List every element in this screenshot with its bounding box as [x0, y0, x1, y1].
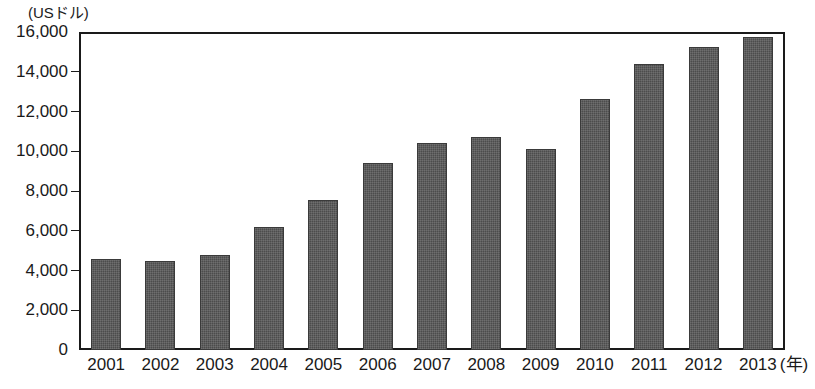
- y-axis-tick-label: 10,000: [0, 142, 68, 159]
- y-axis-tick-label: 8,000: [0, 182, 68, 199]
- y-axis-tick-label: 0: [0, 341, 68, 358]
- x-axis-unit-label: (年): [780, 355, 808, 374]
- x-axis-tick-label: 2002: [130, 355, 190, 374]
- x-axis-tick-label: 2003: [185, 355, 245, 374]
- y-axis-tick: [71, 191, 79, 192]
- x-axis-tick-label: 2007: [402, 355, 462, 374]
- x-axis-tick-label: 2011: [619, 355, 679, 374]
- x-axis-tick-label: 2013: [728, 355, 788, 374]
- y-axis-tick: [71, 71, 79, 72]
- y-axis-tick: [71, 111, 79, 112]
- y-axis-tick: [71, 151, 79, 152]
- y-axis-tick-label: 12,000: [0, 103, 68, 120]
- x-axis-tick-label: 2010: [565, 355, 625, 374]
- y-axis-tick: [71, 270, 79, 271]
- bar-2008: [471, 137, 501, 350]
- x-axis-tick-label: 2004: [239, 355, 299, 374]
- bar-2013: [743, 37, 773, 350]
- x-axis-tick-label: 2008: [456, 355, 516, 374]
- bar-2007: [417, 143, 447, 350]
- bar-2011: [634, 64, 664, 350]
- x-axis-tick-label: 2012: [674, 355, 734, 374]
- y-axis-tick-label: 2,000: [0, 301, 68, 318]
- bar-2001: [91, 259, 121, 350]
- x-axis-tick-label: 2001: [76, 355, 136, 374]
- bar-2004: [254, 227, 284, 350]
- bar-2009: [526, 149, 556, 350]
- y-axis-tick-label: 16,000: [0, 23, 68, 40]
- bar-2012: [689, 47, 719, 350]
- y-axis-tick: [71, 310, 79, 311]
- bar-2006: [363, 163, 393, 350]
- y-axis-tick: [71, 230, 79, 231]
- bar-2002: [145, 261, 175, 350]
- y-axis-tick-label: 14,000: [0, 63, 68, 80]
- x-axis-tick-label: 2005: [293, 355, 353, 374]
- bar-2010: [580, 99, 610, 350]
- bar-2003: [200, 255, 230, 350]
- y-axis-unit-label: (USドル): [28, 1, 89, 22]
- y-axis-tick-label: 4,000: [0, 262, 68, 279]
- x-axis-tick-label: 2006: [348, 355, 408, 374]
- bar-chart: 【世界の人口動態と経済成長の推移】 (USドル) 02,0004,0006,00…: [0, 0, 815, 389]
- bar-2005: [308, 200, 338, 350]
- y-axis-tick-label: 6,000: [0, 222, 68, 239]
- x-axis-tick-label: 2009: [511, 355, 571, 374]
